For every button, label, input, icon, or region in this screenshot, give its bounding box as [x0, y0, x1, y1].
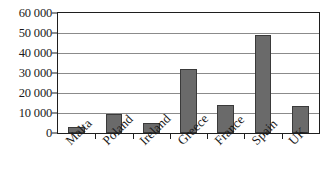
y-tick-label: 30 000: [19, 67, 52, 80]
y-tick-label: 40 000: [19, 47, 52, 60]
x-axis: MaltaPolandIrelandGreeceFranceSpainUK: [0, 138, 328, 190]
y-tick-label: 10 000: [19, 107, 52, 120]
y-tick-label: 50 000: [19, 27, 52, 40]
y-axis: 010 00020 00030 00040 00050 00060 000: [0, 12, 52, 134]
y-tick-label: 60 000: [19, 7, 52, 20]
bar-chart-figure: 010 00020 00030 00040 00050 00060 000 Ma…: [0, 0, 328, 190]
bars-group: [58, 13, 319, 133]
y-tick-label: 20 000: [19, 87, 52, 100]
bar-greece: [180, 13, 197, 133]
bar-uk: [292, 13, 309, 133]
bar-malta: [68, 13, 85, 133]
